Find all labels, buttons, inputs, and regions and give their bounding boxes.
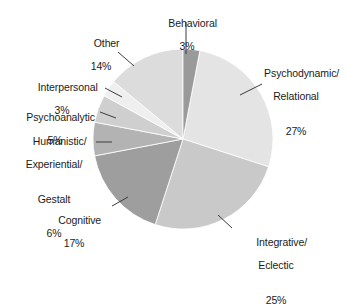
slice-label-psychodynamic-percent: 27% [248,126,344,138]
slice-label-psychodynamic-line1: Psychodynamic/ [264,67,339,79]
slice-label-psychodynamic: Psychodynamic/ Relational 27% [248,56,344,160]
slice-label-integrative: Integrative/ Eclectic 25% [233,225,319,308]
slice-label-humanistic-line3: Gestalt [12,194,96,206]
slice-label-integrative-line2: Eclectic [233,260,319,272]
slice-label-humanistic-percent: 6% [12,228,96,240]
slice-label-other-line1: Other [94,37,120,49]
slice-label-behavioral-line1: Behavioral [168,17,217,29]
slice-label-behavioral-percent: 3% [148,41,226,53]
slice-label-interpersonal-percent: 3% [21,105,103,117]
slice-label-behavioral: Behavioral 3% [148,6,226,76]
slice-label-integrative-line1: Integrative/ [256,236,307,248]
slice-label-other-percent: 14% [73,61,129,73]
slice-label-integrative-percent: 25% [233,295,319,307]
slice-label-psychodynamic-line2: Relational [248,91,344,103]
slice-label-other: Other 14% [73,26,129,96]
